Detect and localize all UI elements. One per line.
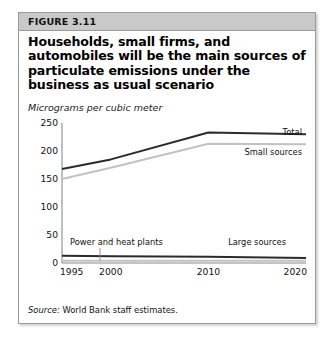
- y-tick-label: 50: [46, 229, 58, 240]
- series-line: [62, 256, 306, 258]
- series-label: Power and heat plants: [70, 237, 163, 247]
- series-label: Small sources: [244, 147, 302, 157]
- figure-title: Households, small firms, and automobiles…: [28, 35, 306, 93]
- x-axis-tick-labels: 1995200020102020: [60, 266, 307, 277]
- source-lead: Source:: [28, 305, 60, 315]
- series-label: Total: [282, 127, 302, 137]
- figure-box: FIGURE 3.11 Households, small firms, and…: [18, 12, 316, 324]
- series-label: Large sources: [228, 237, 286, 247]
- figure-number-label: FIGURE 3.11: [28, 16, 96, 27]
- chart-unit-subtitle: Micrograms per cubic meter: [28, 102, 162, 113]
- y-tick-label: 0: [52, 257, 58, 268]
- x-tick-label: 2010: [197, 266, 221, 277]
- x-tick-label: 2020: [284, 266, 308, 277]
- source-text: World Bank staff estimates.: [60, 305, 178, 315]
- line-chart: 050100150200250 1995200020102020 TotalSm…: [28, 117, 308, 285]
- x-tick-label: 1995: [60, 266, 84, 277]
- y-tick-label: 200: [40, 145, 58, 156]
- chart-plot-area: 050100150200250 1995200020102020 TotalSm…: [28, 117, 308, 285]
- y-axis-tick-labels: 050100150200250: [40, 117, 58, 268]
- x-tick-label: 2000: [99, 266, 123, 277]
- y-tick-label: 250: [40, 117, 58, 128]
- source-note: Source: World Bank staff estimates.: [28, 305, 178, 315]
- y-tick-label: 150: [40, 173, 58, 184]
- y-tick-label: 100: [40, 201, 58, 212]
